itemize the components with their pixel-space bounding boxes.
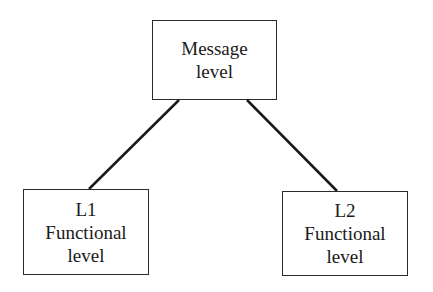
l1-functional-level-box: L1 Functional level (23, 189, 149, 275)
node-label-line: level (68, 244, 105, 267)
edge-message-to-l1 (89, 100, 179, 189)
message-level-box: Message level (152, 20, 277, 100)
node-label-line: Functional (45, 221, 126, 244)
node-label-line: L1 (75, 198, 96, 221)
node-label-line: L2 (334, 199, 355, 222)
l2-functional-level-box: L2 Functional level (282, 191, 408, 276)
edge-message-to-l2 (247, 100, 337, 191)
node-label-line: level (196, 60, 233, 83)
node-label-line: level (327, 245, 364, 268)
node-label-line: Message (181, 37, 247, 60)
node-label-line: Functional (304, 222, 385, 245)
